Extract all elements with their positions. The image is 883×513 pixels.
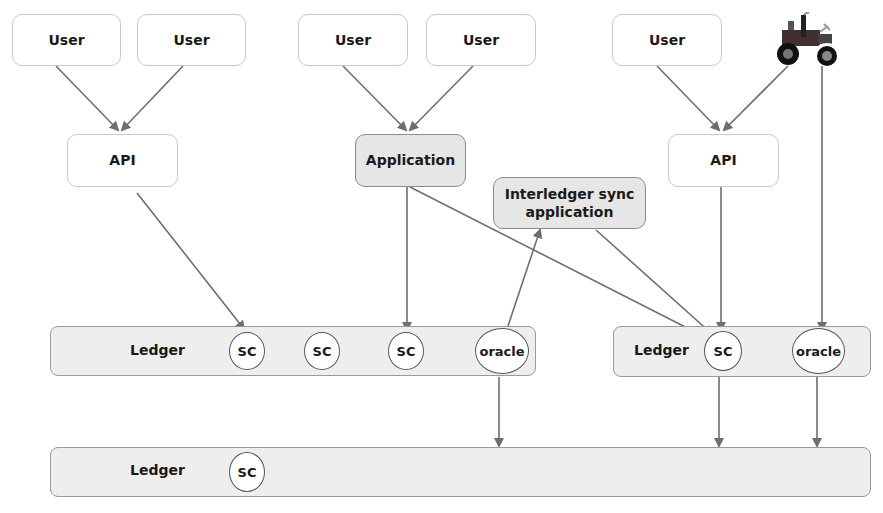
interledger-sync-box: Interledger sync application [493,177,646,229]
user-label: User [173,31,209,49]
arrow-user4-application [410,66,473,130]
arrow-user3-application [343,66,406,130]
ledger-1-label: Ledger [130,342,185,358]
ledger-3-label: Ledger [130,462,185,478]
tractor-icon [768,12,848,68]
node-label: SC [714,344,733,359]
application-box: Application [355,134,466,187]
node-label: SC [397,344,416,359]
arrow-user2-api [122,66,183,130]
oracle-node: oracle [792,328,845,374]
arrow-user1-api [56,66,118,130]
node-label: SC [238,344,257,359]
ledger-2-label: Ledger [634,342,689,358]
api-box-left: API [67,134,178,187]
node-label: SC [238,465,257,480]
interledger-sync-label: Interledger sync application [502,185,637,221]
application-label: Application [366,151,455,169]
oracle-node: oracle [475,328,529,374]
smart-contract-node: SC [229,452,265,492]
node-label: SC [313,344,332,359]
smart-contract-node: SC [704,331,742,371]
user-label: User [649,31,685,49]
smart-contract-node: SC [304,332,340,370]
connector-layer [0,0,883,513]
user-label: User [463,31,499,49]
user-box-5: User [612,14,722,66]
smart-contract-node: SC [229,332,265,370]
smart-contract-node: SC [388,332,424,370]
api-label: API [109,151,135,169]
api-label: API [710,151,736,169]
user-box-3: User [298,14,408,66]
ledger-1 [50,326,536,376]
node-label: oracle [796,344,841,359]
user-box-2: User [137,14,246,66]
user-box-4: User [426,14,536,66]
arrow-user5-api [657,66,719,130]
arrow-api-sc1 [137,193,244,329]
node-label: oracle [479,344,524,359]
arrow-tractor-api [724,66,788,130]
api-box-right: API [668,134,779,187]
arrow-interledger-ledger2-sc [596,230,712,334]
user-label: User [48,31,84,49]
user-label: User [335,31,371,49]
user-box-1: User [12,14,121,66]
